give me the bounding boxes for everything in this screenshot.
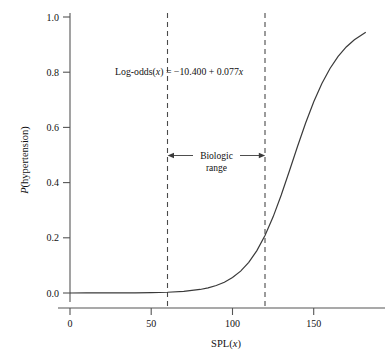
equation-annotation: Log-odds(x) = −10.400 + 0.077x xyxy=(115,66,244,78)
y-tick-label-2: 0.4 xyxy=(47,177,60,188)
y-tick-label-4: 0.8 xyxy=(47,67,60,78)
logistic-regression-chart: 0.0 0.2 0.4 0.6 0.8 1.0 0 50 100 150 SPL… xyxy=(0,0,389,359)
biologic-range-label-line1: Biologic xyxy=(200,151,233,161)
x-tick-label-2: 100 xyxy=(225,318,240,329)
y-tick-label-5: 1.0 xyxy=(47,12,60,23)
y-axis-tick-labels: 0.0 0.2 0.4 0.6 0.8 1.0 xyxy=(47,12,60,299)
biologic-range-left-arrowhead xyxy=(168,153,174,158)
y-tick-label-3: 0.6 xyxy=(47,122,60,133)
x-tick-label-0: 0 xyxy=(68,318,73,329)
y-axis-title: P(hypertension) xyxy=(19,126,31,195)
y-tick-label-0: 0.0 xyxy=(47,288,60,299)
x-axis-ticks xyxy=(70,308,314,315)
y-tick-label-1: 0.2 xyxy=(47,232,60,243)
x-axis-tick-labels: 0 50 100 150 xyxy=(68,318,322,329)
x-tick-label-1: 50 xyxy=(146,318,156,329)
y-axis-ticks xyxy=(63,17,70,293)
chart-svg: 0.0 0.2 0.4 0.6 0.8 1.0 0 50 100 150 SPL… xyxy=(0,0,389,359)
x-tick-label-3: 150 xyxy=(306,318,321,329)
x-axis-title: SPL(x) xyxy=(211,338,241,350)
biologic-range-right-arrowhead xyxy=(259,153,265,158)
biologic-range-label-line2: range xyxy=(206,163,227,173)
biologic-range-annotation: Biologic range xyxy=(168,151,266,173)
